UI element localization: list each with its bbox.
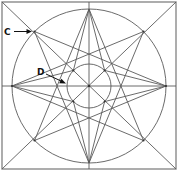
star-line <box>73 102 89 163</box>
inner-point-se <box>104 101 106 103</box>
tip-point-sw <box>33 139 35 141</box>
tip-point-w <box>11 85 13 87</box>
center-point <box>88 85 91 88</box>
inner-point-nw <box>72 69 74 71</box>
tip-point-c <box>33 30 35 32</box>
star-line <box>35 86 167 141</box>
star-line <box>12 86 73 102</box>
star-line <box>73 9 89 70</box>
star-line <box>89 102 105 163</box>
star-line <box>12 86 144 141</box>
star-line <box>12 32 144 87</box>
star-line <box>89 32 144 164</box>
star-line <box>35 32 90 164</box>
inner-point-ne <box>104 69 106 71</box>
star-line <box>89 9 144 141</box>
tip-point-se <box>142 139 144 141</box>
inner-point-sw <box>72 101 74 103</box>
star-line <box>105 70 166 86</box>
star-line <box>89 9 105 70</box>
star-diagram: C D <box>0 0 180 172</box>
tip-point-ne <box>142 30 144 32</box>
tip-point-e <box>165 85 167 87</box>
star-line <box>105 86 166 102</box>
label-c: C <box>4 27 11 37</box>
label-d: D <box>37 67 44 77</box>
